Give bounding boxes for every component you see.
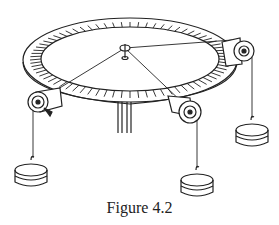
pulley-right bbox=[222, 38, 254, 66]
weight-right bbox=[236, 116, 268, 146]
weight-left bbox=[15, 156, 47, 186]
pulley-front-right bbox=[168, 96, 201, 123]
weight-front bbox=[181, 166, 213, 196]
force-table-diagram bbox=[0, 0, 279, 225]
figure-caption: Figure 4.2 bbox=[0, 199, 279, 217]
